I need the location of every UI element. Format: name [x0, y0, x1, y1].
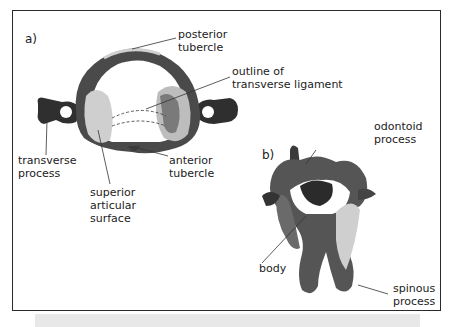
label-superior-articular-surface: superior articular surface: [90, 186, 136, 225]
caption-bar: [35, 314, 420, 327]
label-spinous-process: spinous process: [393, 282, 435, 308]
label-odontoid-process: odontoid process: [374, 120, 423, 146]
label-posterior-tubercle: posterior tubercle: [178, 28, 227, 54]
panel-a-letter: a): [25, 32, 37, 46]
label-transverse-process: transverse process: [18, 154, 77, 180]
label-transverse-ligament: outline of transverse ligament: [232, 65, 343, 91]
label-anterior-tubercle: anterior tubercle: [169, 154, 214, 180]
label-body: body: [259, 262, 286, 275]
panel-b-letter: b): [262, 148, 274, 162]
atlas-vertebra: [38, 48, 238, 153]
